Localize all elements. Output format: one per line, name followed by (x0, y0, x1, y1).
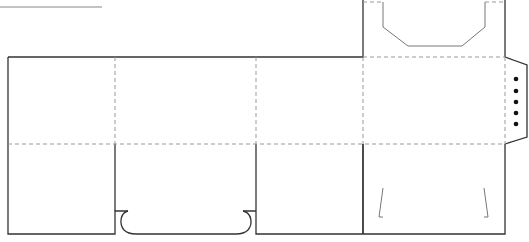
slit-right (484, 188, 488, 217)
hole-icon (514, 89, 519, 94)
hole-icon (514, 111, 519, 116)
slit-left (379, 188, 383, 217)
bottom-lock-tab (121, 211, 251, 234)
box-dieline (0, 0, 529, 242)
hole-icon (514, 100, 519, 105)
handle-cutout (383, 2, 485, 46)
hole-icon (514, 122, 519, 127)
hole-icon (514, 77, 519, 82)
